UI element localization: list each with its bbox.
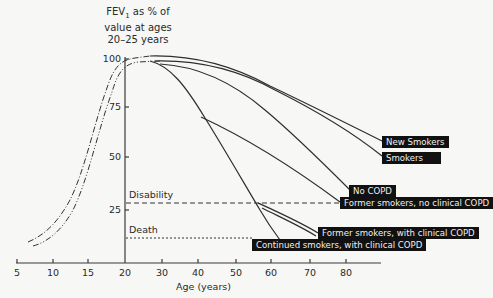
curve-new-smokers: [150, 56, 382, 141]
y-axis-title: FEV1 as % of value at ages 20–25 years: [104, 6, 172, 46]
x-tick-70: 70: [298, 267, 322, 278]
legend-former-no-copd: Former smokers, no clinical COPD: [340, 197, 493, 209]
x-tick-40: 40: [186, 267, 210, 278]
x-tick-80: 80: [334, 267, 358, 278]
x-tick-60: 60: [259, 267, 283, 278]
x-tick-20: 20: [113, 267, 137, 278]
death-label: Death: [129, 224, 158, 235]
x-axis: [16, 259, 381, 263]
curve-smokers: [155, 61, 382, 156]
y-tick-50: 50: [97, 151, 121, 162]
x-tick-10: 10: [41, 267, 65, 278]
curve-continued-with-copd: [150, 61, 280, 240]
x-tick-5: 5: [5, 267, 29, 278]
disability-label: Disability: [129, 189, 173, 200]
curve-former-with-copd: [258, 203, 318, 233]
y-tick-25: 25: [97, 204, 121, 215]
x-tick-30: 30: [150, 267, 174, 278]
x-axis-label: Age (years): [176, 281, 231, 292]
legend-no-copd: No COPD: [349, 185, 396, 197]
legend-new-smokers: New Smokers: [382, 136, 449, 148]
growth-curve-upper: [28, 56, 150, 242]
legend-smokers: Smokers: [382, 152, 441, 164]
x-tick-50: 50: [224, 267, 248, 278]
curve-former-with-copd-2: [262, 208, 316, 236]
legend-former-with-copd: Former smokers, with clinical COPD: [318, 227, 479, 239]
y-tick-75: 75: [97, 101, 121, 112]
y-tick-100: 100: [97, 53, 121, 64]
legend-continued-with-copd: Continued smokers, with clinical COPD: [252, 239, 426, 251]
x-tick-15: 15: [76, 267, 100, 278]
curve-no-copd: [160, 64, 350, 190]
